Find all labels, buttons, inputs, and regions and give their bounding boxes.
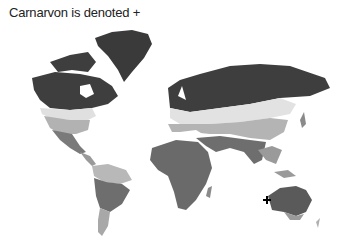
- japan: [300, 112, 306, 128]
- new-zealand: [316, 218, 320, 228]
- africa: [150, 140, 212, 210]
- greenland: [95, 30, 152, 82]
- world-map: [0, 0, 347, 248]
- south-america-south: [98, 208, 110, 236]
- central-america: [80, 152, 96, 166]
- arctic-islands: [50, 52, 96, 72]
- south-america-mid: [94, 178, 130, 212]
- australia: [268, 186, 312, 216]
- madagascar: [206, 186, 212, 198]
- north-america-boreal: [32, 72, 118, 110]
- indonesia: [274, 170, 296, 178]
- mexico: [52, 130, 86, 154]
